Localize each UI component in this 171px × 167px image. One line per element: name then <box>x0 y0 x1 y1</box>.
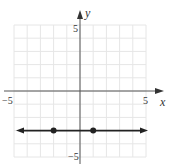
data-point <box>90 128 96 134</box>
data-point <box>51 128 57 134</box>
coordinate-plane: y x 5 −5 −5 5 <box>0 0 171 167</box>
y-max-tick-label: 5 <box>73 23 78 34</box>
x-axis-label: x <box>159 95 166 109</box>
series-line <box>16 128 148 134</box>
x-max-tick-label: 5 <box>143 95 148 106</box>
y-axis-arrow-icon <box>77 10 83 19</box>
y-min-tick-label: −5 <box>68 151 79 162</box>
left-arrow-icon <box>16 128 24 134</box>
x-min-tick-label: −5 <box>2 95 13 106</box>
right-arrow-icon <box>140 128 148 134</box>
x-axis-arrow-icon <box>155 88 164 94</box>
y-axis-label: y <box>84 6 91 20</box>
